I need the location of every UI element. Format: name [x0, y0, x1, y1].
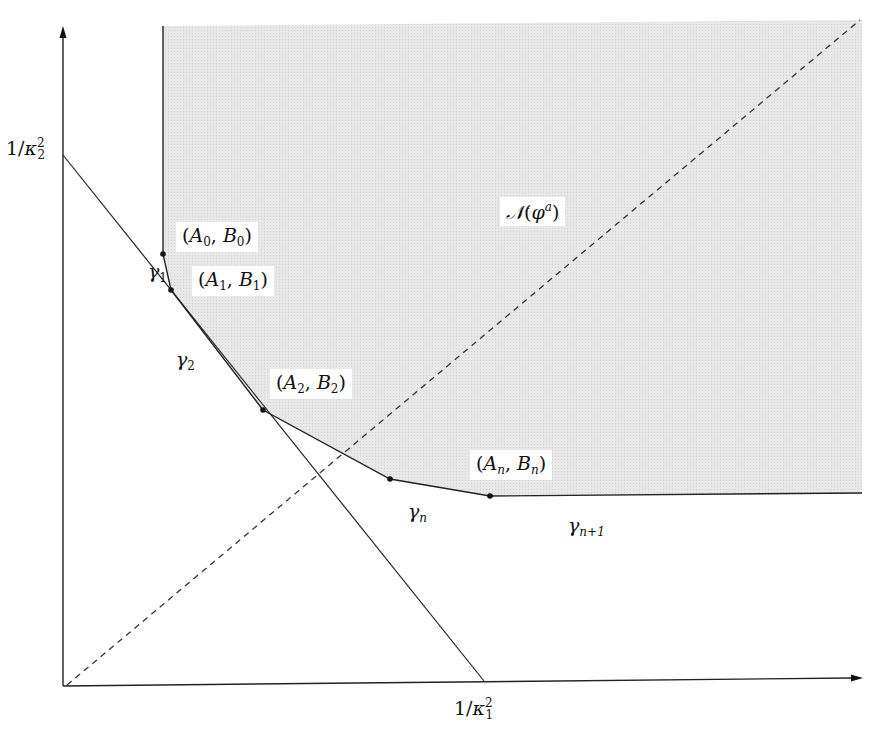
edge-label-gamma-1: γ1 — [148, 262, 167, 284]
vertex-dot-a1 — [168, 287, 174, 293]
b-idx: 2 — [331, 382, 339, 396]
vertex-label-a0: (A0, B0) — [176, 222, 258, 252]
x-label-kappa: κ — [473, 697, 485, 719]
edge-label-gamma-n-plus-1: γn+1 — [568, 516, 605, 538]
y-axis-arrow-icon — [60, 26, 67, 38]
gamma-sub: n+1 — [579, 525, 604, 539]
vertex-dot-an-1 — [387, 476, 393, 482]
b-idx: 1 — [253, 279, 261, 293]
region-label-sup: a — [545, 200, 552, 214]
gamma-sub: n — [419, 511, 427, 525]
region-label: 𝒩(φa) — [500, 197, 565, 226]
a-sym: A — [483, 452, 497, 474]
gamma-sym: γ — [148, 260, 159, 282]
x-axis — [63, 678, 852, 686]
y-label-sub: 2 — [38, 148, 46, 162]
a-sym: A — [189, 224, 203, 246]
b-sym: B — [239, 268, 253, 290]
edge-label-gamma-n: γn — [408, 502, 427, 524]
x-label-num: 1/ — [454, 697, 473, 719]
b-sym: B — [517, 452, 531, 474]
region-label-close: ) — [552, 201, 559, 223]
vertex-dot-a2 — [260, 407, 266, 413]
a-idx: 1 — [219, 279, 227, 293]
a-idx: n — [497, 463, 505, 477]
gamma-sub: 2 — [187, 359, 195, 373]
gamma-sub: 1 — [159, 271, 167, 285]
a-idx: 2 — [297, 382, 305, 396]
y-label-kappa: κ — [25, 137, 37, 159]
b-sym: B — [223, 224, 237, 246]
newton-polygon-diagram — [0, 0, 876, 735]
y-label-num: 1/ — [6, 137, 25, 159]
x-axis-label: 1/κ21 — [454, 697, 493, 721]
vertex-dot-an — [487, 493, 493, 499]
region-label-n: 𝒩 — [506, 201, 524, 223]
x-label-sub: 1 — [486, 708, 494, 722]
vertex-label-an: (An, Bn) — [470, 450, 552, 480]
gamma-sym: γ — [408, 500, 419, 522]
a-sym: A — [205, 268, 219, 290]
gamma-sym: γ — [176, 348, 187, 370]
b-idx: n — [531, 463, 539, 477]
vertex-label-a1: (A1, B1) — [192, 266, 274, 296]
gamma-sym: γ — [568, 514, 579, 536]
vertex-dot-a0 — [160, 251, 166, 257]
x-axis-arrow-icon — [851, 675, 863, 682]
vertex-label-a2: (A2, B2) — [270, 369, 352, 399]
shaded-region — [163, 20, 862, 496]
edge-label-gamma-2: γ2 — [176, 350, 195, 372]
a-sym: A — [283, 371, 297, 393]
region-label-phi: φ — [531, 201, 544, 223]
a-idx: 0 — [203, 235, 211, 249]
b-idx: 0 — [237, 235, 245, 249]
y-axis-label: 1/κ22 — [6, 137, 45, 161]
b-sym: B — [317, 371, 331, 393]
